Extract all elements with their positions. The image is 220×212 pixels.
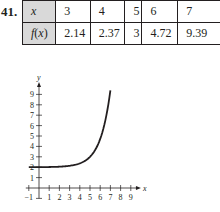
y-tick-label: 3 [30, 153, 34, 162]
x-tick-label: 4 [78, 193, 82, 202]
y-tick-label: 7 [30, 111, 34, 120]
function-graph: xy−1123456789123456789 [0, 0, 220, 212]
x-tick-label: 8 [119, 193, 123, 202]
y-tick-label: 8 [30, 101, 34, 110]
x-tick-label: 5 [88, 193, 92, 202]
x-tick-label: 1 [47, 193, 51, 202]
y-tick-label: 6 [30, 122, 34, 131]
x-tick-label: 9 [129, 193, 133, 202]
x-tick-label: 7 [108, 193, 112, 202]
y-tick-label: 1 [30, 174, 34, 183]
y-tick-label: 9 [30, 90, 34, 99]
y-axis-arrow-icon [37, 82, 41, 87]
x-tick-label: −1 [25, 193, 34, 202]
x-tick-label: 3 [68, 193, 72, 202]
x-tick-label: 2 [57, 193, 61, 202]
y-axis-label: y [36, 73, 41, 82]
function-curve [29, 90, 111, 167]
x-tick-label: 6 [98, 193, 102, 202]
y-tick-label: 5 [30, 132, 34, 141]
x-axis-arrow-icon [136, 186, 141, 190]
x-axis-label: x [142, 184, 147, 193]
y-tick-label: 4 [30, 142, 34, 151]
